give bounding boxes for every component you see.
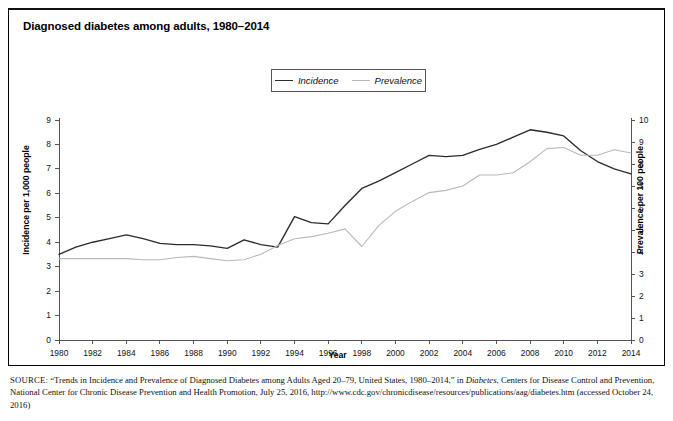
series-line-incidence xyxy=(59,130,631,255)
y-axis-right-title: Prevalence per 100 people xyxy=(635,135,645,265)
x-axis-tick-label: 1990 xyxy=(211,348,243,358)
x-axis-tick-label: 2004 xyxy=(447,348,479,358)
x-axis-tick-label: 1994 xyxy=(279,348,311,358)
x-axis-tick-label: 1988 xyxy=(178,348,210,358)
y-axis-left-tick-label: 6 xyxy=(25,188,51,198)
y-axis-left-tick-label: 3 xyxy=(25,261,51,271)
y-axis-right-tick-label: 3 xyxy=(639,269,665,279)
y-axis-left-tick-label: 2 xyxy=(25,286,51,296)
x-axis-tick-label: 2000 xyxy=(379,348,411,358)
source-note: SOURCE: “Trends in Incidence and Prevale… xyxy=(10,374,665,411)
plot-area: Incidence per 1,000 people Prevalence pe… xyxy=(9,10,666,368)
source-label: SOURCE: xyxy=(10,375,48,385)
y-axis-left-tick-label: 8 xyxy=(25,139,51,149)
y-axis-right-tick-label: 10 xyxy=(639,115,665,125)
y-axis-left-tick-label: 7 xyxy=(25,163,51,173)
source-text-1: “Trends in Incidence and Prevalence of D… xyxy=(48,375,466,385)
x-axis-tick-label: 2006 xyxy=(480,348,512,358)
x-axis-tick-label: 1996 xyxy=(312,348,344,358)
chart-series xyxy=(59,130,631,261)
x-axis-tick-label: 2010 xyxy=(548,348,580,358)
y-axis-right-tick-label: 6 xyxy=(639,203,665,213)
y-axis-right-tick-label: 5 xyxy=(639,225,665,235)
y-axis-left-tick-label: 4 xyxy=(25,237,51,247)
x-axis-tick-label: 1998 xyxy=(346,348,378,358)
x-axis-tick-label: 2002 xyxy=(413,348,445,358)
y-axis-left-tick-label: 0 xyxy=(25,335,51,345)
x-axis-tick-label: 1986 xyxy=(144,348,176,358)
chart-axes xyxy=(55,118,635,344)
x-axis-tick-label: 2008 xyxy=(514,348,546,358)
figure-page: Diagnosed diabetes among adults, 1980–20… xyxy=(0,0,673,421)
y-axis-left-tick-label: 9 xyxy=(25,115,51,125)
x-axis-tick-label: 1982 xyxy=(77,348,109,358)
y-axis-right-tick-label: 0 xyxy=(639,335,665,345)
y-axis-right-tick-label: 8 xyxy=(639,159,665,169)
figure-box: Diagnosed diabetes among adults, 1980–20… xyxy=(8,8,665,366)
x-axis-tick-label: 2012 xyxy=(581,348,613,358)
y-axis-left-tick-label: 1 xyxy=(25,310,51,320)
source-italic-journal: Diabetes xyxy=(466,375,497,385)
y-axis-right-tick-label: 9 xyxy=(639,137,665,147)
y-axis-right-tick-label: 1 xyxy=(639,313,665,323)
y-axis-left-tick-label: 5 xyxy=(25,212,51,222)
y-axis-right-tick-label: 4 xyxy=(639,247,665,257)
x-axis-tick-label: 1980 xyxy=(43,348,75,358)
y-axis-right-tick-label: 7 xyxy=(639,181,665,191)
y-axis-right-tick-label: 2 xyxy=(639,291,665,301)
x-axis-tick-label: 1984 xyxy=(110,348,142,358)
x-axis-tick-label: 2014 xyxy=(615,348,647,358)
x-axis-tick-label: 1992 xyxy=(245,348,277,358)
chart-canvas xyxy=(9,10,666,368)
series-line-prevalence xyxy=(59,148,631,261)
